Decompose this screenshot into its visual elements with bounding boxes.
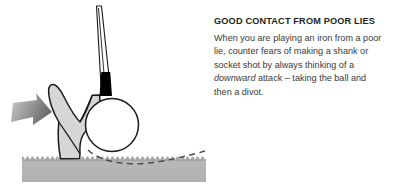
golf-ball <box>86 99 139 152</box>
turf-ground <box>22 157 206 183</box>
tip-heading: GOOD CONTACT FROM POOR LIES <box>214 16 390 27</box>
illustration-panel <box>0 0 212 192</box>
club-ferrule <box>100 72 113 96</box>
tip-illustration-page: GOOD CONTACT FROM POOR LIES When you are… <box>0 0 395 192</box>
tip-body-part-1: When you are playing an iron from a poor… <box>214 33 381 70</box>
tip-body-emphasis: downward <box>214 73 255 83</box>
caption-panel: GOOD CONTACT FROM POOR LIES When you are… <box>214 16 390 99</box>
downward-attack-arrow <box>11 93 52 125</box>
tip-body: When you are playing an iron from a poor… <box>214 32 386 99</box>
golf-swing-diagram <box>0 0 212 192</box>
